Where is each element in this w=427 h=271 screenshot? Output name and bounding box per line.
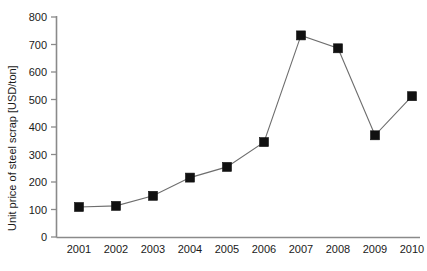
data-point-2003 — [149, 191, 158, 200]
y-axis-label: Unit price of steel scrap [USD/ton] — [6, 65, 18, 231]
chart-canvas: Unit price of steel scrap [USD/ton] 800 … — [0, 0, 427, 271]
data-point-2004 — [186, 173, 195, 182]
y-tick-label: 800 — [29, 11, 47, 23]
x-tick-label-2002: 2002 — [104, 243, 128, 255]
data-point-2005 — [223, 162, 232, 171]
y-tick-label: 300 — [29, 149, 47, 161]
data-point-2008 — [334, 44, 343, 53]
data-point-2007 — [297, 31, 306, 40]
y-axis-ticks — [51, 17, 57, 237]
y-axis-tick-labels: 800 700 600 500 400 300 200 100 0 — [29, 11, 47, 243]
data-point-2001 — [75, 203, 84, 212]
y-tick-label: 100 — [29, 204, 47, 216]
y-tick-label: 500 — [29, 94, 47, 106]
x-axis-tick-labels: 2001 2002 2003 2004 2005 2006 2007 2008 … — [67, 243, 424, 255]
x-tick-label-2004: 2004 — [178, 243, 202, 255]
y-tick-label: 700 — [29, 39, 47, 51]
x-tick-label-2007: 2007 — [289, 243, 313, 255]
data-point-2010 — [408, 92, 417, 101]
y-tick-label: 600 — [29, 66, 47, 78]
series-line-steel-scrap — [79, 35, 412, 207]
x-tick-label-2001: 2001 — [67, 243, 91, 255]
y-tick-label: 400 — [29, 121, 47, 133]
x-tick-label-2003: 2003 — [141, 243, 165, 255]
x-tick-label-2008: 2008 — [326, 243, 350, 255]
series-markers — [75, 31, 417, 212]
x-tick-label-2006: 2006 — [252, 243, 276, 255]
steel-scrap-price-chart: Unit price of steel scrap [USD/ton] 800 … — [0, 0, 427, 271]
x-tick-label-2005: 2005 — [215, 243, 239, 255]
data-point-2006 — [260, 138, 269, 147]
y-tick-label: 200 — [29, 176, 47, 188]
data-point-2009 — [371, 131, 380, 140]
x-tick-label-2010: 2010 — [400, 243, 424, 255]
y-tick-label: 0 — [41, 231, 47, 243]
x-tick-label-2009: 2009 — [363, 243, 387, 255]
data-point-2002 — [112, 201, 121, 210]
